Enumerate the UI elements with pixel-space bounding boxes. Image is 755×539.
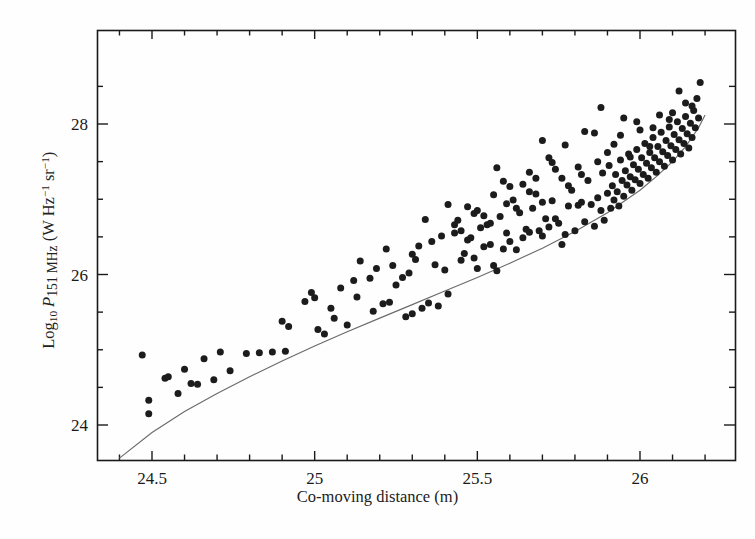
scatter-point: [532, 190, 539, 197]
scatter-point: [217, 349, 224, 356]
scatter-point: [282, 348, 289, 355]
scatter-point: [227, 367, 234, 374]
scatter-point: [526, 229, 533, 236]
scatter-point: [581, 128, 588, 135]
scatter-point: [633, 146, 640, 153]
scatter-point: [689, 102, 696, 109]
scatter-point: [425, 300, 432, 307]
scatter-point: [441, 266, 448, 273]
scatter-point: [477, 224, 484, 231]
plot-canvas: 24.52525.526242628: [0, 0, 755, 539]
scatter-point: [474, 265, 481, 272]
scatter-point: [503, 200, 510, 207]
scatter-point: [674, 118, 681, 125]
scatter-point: [513, 246, 520, 253]
scatter-point: [604, 149, 611, 156]
scatter-point: [565, 203, 572, 210]
scatter-point: [415, 242, 422, 249]
scatter-point: [575, 163, 582, 170]
scatter-point: [612, 171, 619, 178]
scatter-point: [519, 181, 526, 188]
scatter-point: [669, 157, 676, 164]
scatter-point: [269, 349, 276, 356]
scatter-point: [526, 169, 533, 176]
scatter-point: [419, 305, 426, 312]
scatter-point: [542, 215, 549, 222]
scatter-point: [679, 125, 686, 132]
scatter-point: [513, 205, 520, 212]
scatter-point: [620, 193, 627, 200]
scatter-point: [584, 177, 591, 184]
scatter-point: [628, 187, 635, 194]
scatter-point: [406, 270, 413, 277]
scatter-point: [458, 227, 465, 234]
scatter-point: [181, 366, 188, 373]
scatter-point: [210, 376, 217, 383]
scatter-point: [526, 188, 533, 195]
x-tick-label: 25: [306, 469, 323, 488]
scatter-point: [165, 373, 172, 380]
y-axis-title-units-exp2: −1: [39, 157, 51, 169]
scatter-point: [493, 164, 500, 171]
scatter-point: [451, 221, 458, 228]
scatter-point: [438, 233, 445, 240]
scatter-point: [353, 294, 360, 301]
scatter-point: [671, 131, 678, 138]
scatter-point: [175, 390, 182, 397]
scatter-point: [370, 308, 377, 315]
scatter-point: [653, 169, 660, 176]
scatter-point: [646, 143, 653, 150]
scatter-point: [633, 118, 640, 125]
scatter-point: [357, 257, 364, 264]
scatter-point: [685, 145, 692, 152]
scatter-point: [188, 380, 195, 387]
scatter-point: [552, 166, 559, 173]
scatter-point: [562, 142, 569, 149]
scatter-point: [503, 230, 510, 237]
scatter-point: [597, 207, 604, 214]
scatter-point: [386, 299, 393, 306]
scatter-point: [571, 227, 578, 234]
x-tick-label: 25.5: [462, 469, 492, 488]
scatter-point: [689, 134, 696, 141]
scatter-point: [539, 233, 546, 240]
y-tick-label: 24: [71, 416, 89, 435]
scatter-point: [331, 315, 338, 322]
scatter-point: [599, 169, 606, 176]
scatter-point: [480, 243, 487, 250]
scatter-point: [383, 245, 390, 252]
y-axis-title-units-close: ): [39, 152, 58, 158]
scatter-point: [493, 267, 500, 274]
scatter-point: [555, 220, 562, 227]
scatter-point: [461, 250, 468, 257]
scatter-point: [617, 132, 624, 139]
scatter-point: [623, 181, 630, 188]
scatter-point: [464, 203, 471, 210]
y-axis-title-log: Log: [39, 322, 58, 349]
scatter-point: [646, 149, 653, 156]
scatter-point: [614, 188, 621, 195]
x-tick-label: 24.5: [137, 469, 167, 488]
scatter-point: [393, 282, 400, 289]
scatter-point: [578, 171, 585, 178]
scatter-point: [539, 137, 546, 144]
scatter-point: [471, 254, 478, 261]
scatter-point: [487, 220, 494, 227]
scatter-point: [539, 199, 546, 206]
scatter-point: [658, 129, 665, 136]
scatter-point: [500, 245, 507, 252]
scatter-point: [529, 205, 536, 212]
scatter-point: [693, 95, 700, 102]
scatter-point: [682, 113, 689, 120]
scatter-point: [627, 154, 634, 161]
scatter-point: [445, 201, 452, 208]
y-tick-label: 28: [71, 115, 88, 134]
scatter-point: [695, 114, 702, 121]
scatter-point: [545, 224, 552, 231]
scatter-point: [610, 141, 617, 148]
scatter-point: [638, 154, 645, 161]
scatter-point: [256, 349, 263, 356]
scatter-point: [609, 182, 616, 189]
scatter-point: [610, 197, 617, 204]
y-axis-title-power-subscript: 151 MHz: [45, 245, 60, 296]
